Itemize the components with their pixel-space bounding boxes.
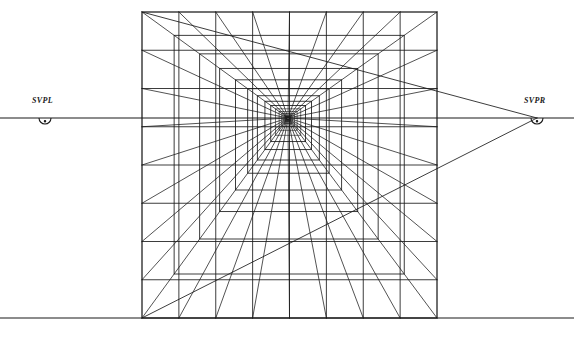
orthogonal-ray-0 xyxy=(142,12,287,117)
svpl-center-dot xyxy=(44,121,45,122)
perspective-diagram-stage: SVPL SVPR xyxy=(0,0,574,339)
orthogonal-ray-2 xyxy=(179,12,287,117)
orthogonal-ray-14 xyxy=(289,12,400,117)
orthogonal-ray-5 xyxy=(216,120,288,318)
svpr-label: SVPR xyxy=(524,96,546,105)
svpr-center-dot xyxy=(536,121,537,122)
orthogonal-ray-1 xyxy=(142,120,287,318)
orthogonal-ray-28 xyxy=(142,119,287,242)
orthogonal-ray-15 xyxy=(289,120,400,318)
perspective-drawing-canvas xyxy=(0,0,574,339)
reference-line-group xyxy=(0,118,574,318)
orthogonal-ray-26 xyxy=(142,119,287,204)
orthogonal-ray-3 xyxy=(179,120,287,318)
svpr-ceiling-diagonal xyxy=(142,12,537,118)
orthogonal-ray-12 xyxy=(289,12,364,117)
svpr-floor-diagonal xyxy=(142,118,537,318)
front-face-grid-group xyxy=(142,12,437,318)
svpl-label: SVPL xyxy=(32,96,53,105)
